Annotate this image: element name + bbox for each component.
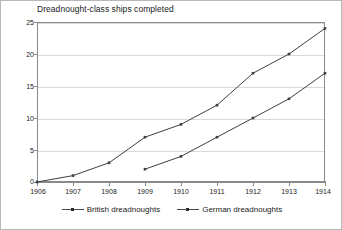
x-tick-mark [37, 182, 38, 186]
y-tick-label: 0 [4, 178, 34, 185]
x-tick-mark [181, 182, 182, 186]
y-tick-mark [34, 22, 37, 23]
legend-label: British dreadnoughts [87, 205, 160, 214]
x-tick-mark [145, 182, 146, 186]
x-tick-label: 1907 [53, 188, 93, 196]
y-tick-mark [34, 86, 37, 87]
x-tick-mark [253, 182, 254, 186]
x-tick-label: 1912 [233, 188, 273, 196]
y-tick-label: 10 [4, 115, 34, 122]
x-tick-mark [109, 182, 110, 186]
gridline [38, 55, 324, 56]
chart-title: Dreadnought-class ships completed [37, 4, 174, 15]
gridline [38, 151, 324, 152]
x-tick-label: 1909 [125, 188, 165, 196]
x-tick-mark [73, 182, 74, 186]
y-tick-mark [34, 54, 37, 55]
x-tick-label: 1906 [18, 188, 58, 196]
line-marker-icon [177, 205, 199, 214]
x-tick-label: 1910 [161, 188, 201, 196]
y-tick-mark [34, 150, 37, 151]
plot-area [37, 22, 325, 182]
legend-label: German dreadnoughts [202, 205, 282, 214]
gridline [38, 87, 324, 88]
y-tick-label: 20 [4, 51, 34, 58]
gridline [38, 119, 324, 120]
legend-entry-german[interactable]: German dreadnoughts [177, 205, 282, 214]
y-tick-label: 5 [4, 147, 34, 154]
legend-entry-british[interactable]: British dreadnoughts [62, 205, 160, 214]
x-tick-mark [217, 182, 218, 186]
y-tick-label: 15 [4, 83, 34, 90]
x-tick-label: 1908 [89, 188, 129, 196]
x-tick-label: 1914 [303, 188, 342, 196]
x-tick-mark [289, 182, 290, 186]
gridline [38, 23, 324, 24]
line-marker-icon [62, 205, 84, 214]
y-tick-mark [34, 118, 37, 119]
x-tick-mark [325, 182, 326, 186]
y-tick-label: 25 [4, 19, 34, 26]
chart-legend: British dreadnoughts German dreadnoughts [1, 205, 342, 214]
x-tick-label: 1911 [197, 188, 237, 196]
chart-figure: Dreadnought-class ships completed 25 20 … [0, 0, 342, 230]
